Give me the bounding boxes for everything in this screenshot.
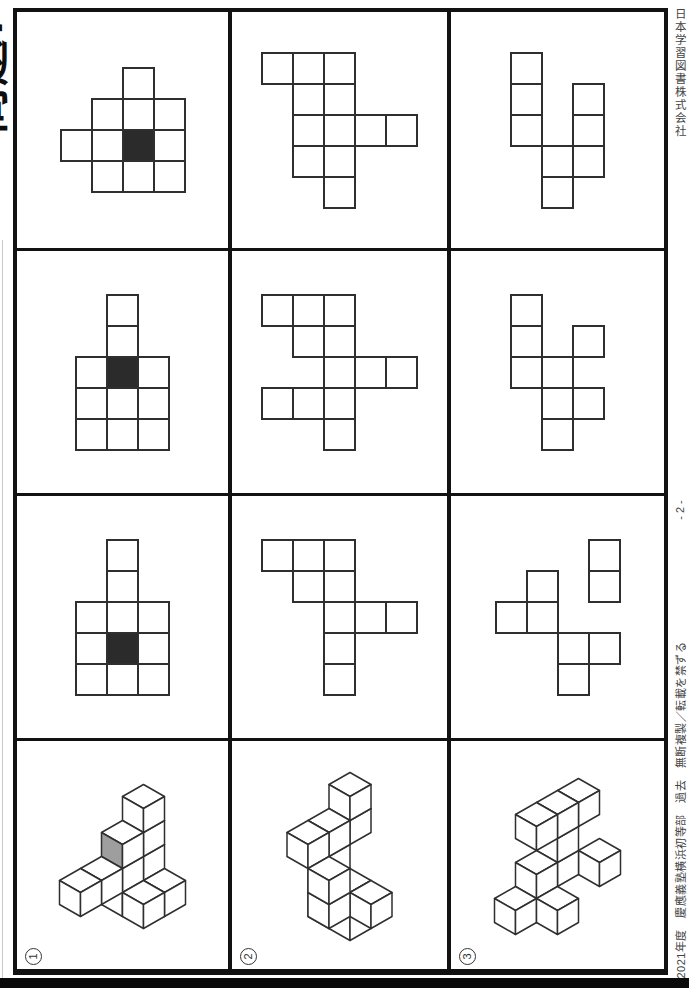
answer-cell-r3c3	[451, 497, 664, 738]
copyright-notice: 2021年度 慶應義塾横浜初等部 過去 無断複製／転載を禁ずる	[674, 635, 688, 985]
scan-artifact-line	[2, 240, 3, 988]
answer-cell-r3c2	[232, 497, 447, 738]
polyomino-figure	[17, 12, 228, 248]
cube-figure	[17, 742, 228, 971]
answer-cell-r2c3	[451, 252, 664, 493]
figure-cell-1: 1	[17, 742, 228, 971]
figure-cell-2: 2	[232, 742, 447, 971]
answer-cell-r2c1	[17, 252, 228, 493]
polyomino-figure	[232, 497, 447, 738]
figure-number-2: 2	[240, 948, 257, 965]
row-divider-2	[13, 493, 668, 496]
answer-cell-r1c2	[232, 12, 447, 248]
polyomino-figure	[451, 12, 664, 248]
answer-cell-r1c1	[17, 12, 228, 248]
page-number: - 2 -	[674, 490, 686, 530]
worksheet-page: 問題7 1 2 3 日本学習図書株式会社 - 2 - 2021年度 慶應義塾横浜…	[0, 0, 689, 988]
row-divider-1	[13, 248, 668, 251]
cube-figure	[232, 742, 447, 971]
polyomino-figure	[451, 252, 664, 493]
row-divider-3	[13, 738, 668, 741]
cube-figure	[451, 742, 664, 971]
answer-cell-r1c3	[451, 12, 664, 248]
polyomino-figure	[451, 497, 664, 738]
answer-cell-r2c2	[232, 252, 447, 493]
answer-cell-r3c1	[17, 497, 228, 738]
figure-cell-3: 3	[451, 742, 664, 971]
page-edge-bar	[0, 978, 689, 988]
figure-number-3: 3	[459, 948, 476, 965]
polyomino-figure	[17, 497, 228, 738]
polyomino-figure	[17, 252, 228, 493]
worksheet-title: 問題7	[0, 0, 11, 152]
figure-number-1: 1	[25, 948, 42, 965]
polyomino-figure	[232, 252, 447, 493]
publisher-imprint: 日本学習図書株式会社	[672, 8, 688, 138]
polyomino-figure	[232, 12, 447, 248]
